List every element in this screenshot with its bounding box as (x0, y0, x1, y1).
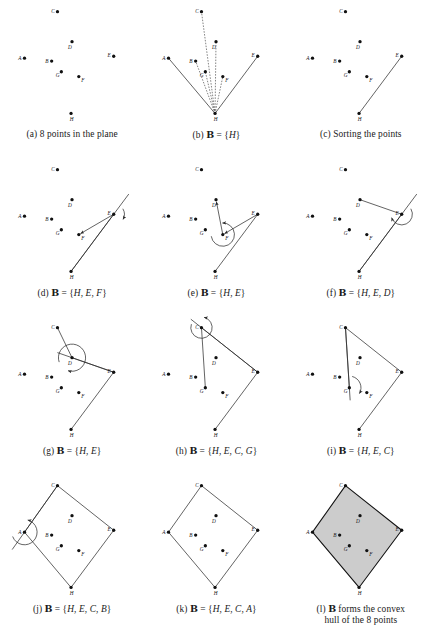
caption-fragment: } (236, 130, 241, 140)
point-dot-B (50, 59, 53, 62)
point-A: A (306, 55, 315, 61)
dashed-segment-HD (215, 42, 216, 114)
segment-HE (71, 372, 114, 429)
caption-fragment: H, E, C, B (67, 604, 107, 614)
point-dot-D (359, 514, 362, 517)
point-A: A (17, 213, 26, 219)
point-A: A (161, 55, 170, 61)
point-E: E (395, 52, 404, 58)
point-G: G (55, 386, 62, 393)
point-label-B: B (334, 216, 338, 222)
point-dot-B (50, 533, 53, 536)
segment-EC (346, 328, 402, 373)
caption-fragment: } (102, 288, 107, 298)
angle-arc-at-G (352, 376, 361, 393)
point-B: B (45, 532, 53, 538)
point-dot-E (400, 529, 403, 532)
point-label-A: A (306, 529, 311, 535)
segment-HE (215, 214, 258, 271)
point-dot-H (69, 428, 72, 431)
point-dot-A (311, 373, 314, 376)
caption-fragment: B (190, 603, 198, 614)
point-B: B (334, 216, 342, 222)
panel-caption-e: (e) B = {H, E} (188, 286, 246, 299)
point-label-B: B (189, 532, 193, 538)
panel-i-hec: ABCDEFGH(i) B = {H, E, C} (289, 316, 433, 474)
caption-fragment: B (206, 129, 214, 140)
point-label-A: A (17, 55, 22, 61)
point-label-G: G (55, 230, 59, 236)
segment-CG (201, 328, 205, 388)
caption-fragment: (j) (33, 604, 45, 614)
point-label-G: G (344, 388, 348, 394)
panel-b-init-canvas: ABCDEFGH (149, 0, 284, 128)
segment-CG (346, 328, 350, 388)
panel-e-he: ABCDEFGH(e) B = {H, E} (144, 158, 288, 316)
point-G: G (200, 228, 207, 235)
point-dot-F (77, 75, 80, 78)
panel-f-hed: ABCDEFGH(f) B = {H, E, D} (289, 158, 433, 316)
point-label-F: F (80, 393, 85, 399)
segment-EF (224, 214, 257, 233)
point-label-A: A (17, 529, 22, 535)
point-dot-D (70, 514, 73, 517)
segment-AH (24, 532, 71, 587)
point-B: B (189, 532, 197, 538)
caption-fragment: B (328, 603, 336, 614)
point-dot-H (358, 428, 361, 431)
point-G: G (200, 544, 207, 551)
panel-j-hecb: ABCDEFGH(j) B = {H, E, C, B} (0, 474, 144, 632)
caption-fragment: = { (197, 446, 212, 456)
caption-fragment: B (189, 445, 197, 456)
segment-EC (201, 486, 257, 531)
point-A: A (161, 371, 170, 377)
point-label-G: G (200, 388, 204, 394)
caption-fragment: } (241, 288, 246, 298)
panel-caption-b: (b) B = {H} (193, 128, 241, 141)
point-dot-G (59, 386, 62, 389)
point-label-H: H (357, 590, 362, 596)
point-label-C: C (51, 8, 55, 14)
point-dot-B (338, 375, 341, 378)
point-label-C: C (339, 166, 343, 172)
point-label-C: C (195, 8, 199, 14)
point-label-B: B (189, 374, 193, 380)
point-F: F (221, 549, 229, 557)
angle-arc-at-E (123, 209, 125, 220)
point-E: E (250, 210, 259, 216)
caption-fragment: = { (64, 446, 79, 456)
point-dot-E (112, 213, 115, 216)
point-label-F: F (224, 393, 229, 399)
point-dot-H (69, 270, 72, 273)
point-A: A (17, 371, 26, 377)
panel-caption-k: (k) B = {H, E, C, A} (176, 602, 256, 615)
point-dot-C (55, 326, 58, 329)
caption-fragment: = { (346, 288, 361, 298)
point-dot-C (200, 168, 203, 171)
point-label-A: A (306, 213, 311, 219)
point-dot-F (221, 233, 224, 236)
point-H: H (69, 586, 74, 596)
point-label-D: D (211, 202, 216, 208)
caption-fragment: H, E, D (361, 288, 390, 298)
point-label-D: D (355, 202, 360, 208)
point-label-H: H (69, 274, 74, 280)
point-E: E (106, 52, 115, 58)
point-A: A (17, 55, 26, 61)
caption-fragment: (k) (176, 604, 190, 614)
point-D: D (355, 40, 362, 50)
point-label-A: A (161, 213, 166, 219)
point-dot-E (112, 529, 115, 532)
panel-caption-l: (l) B forms the convex hull of the 8 poi… (317, 602, 405, 626)
point-dot-H (69, 586, 72, 589)
point-label-G: G (344, 72, 348, 78)
caption-fragment: H, E (223, 288, 241, 298)
point-dot-F (365, 75, 368, 78)
caption-fragment: } (391, 288, 396, 298)
caption-fragment: (f) (326, 288, 338, 298)
point-label-C: C (339, 8, 343, 14)
point-dot-D (359, 356, 362, 359)
point-label-H: H (213, 116, 218, 122)
point-label-E: E (250, 52, 255, 58)
caption-fragment: H, E, C (361, 446, 390, 456)
